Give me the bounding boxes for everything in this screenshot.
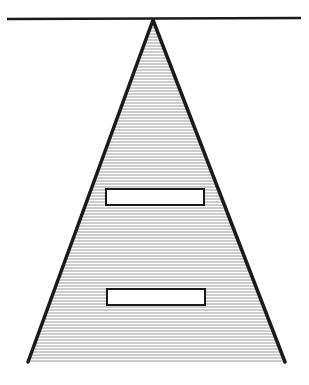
blank-box-lower xyxy=(107,289,205,305)
blank-box-upper xyxy=(106,189,204,205)
top-horizontal-line xyxy=(7,18,301,19)
diagram-canvas xyxy=(0,0,309,385)
diagram-svg xyxy=(0,0,309,385)
